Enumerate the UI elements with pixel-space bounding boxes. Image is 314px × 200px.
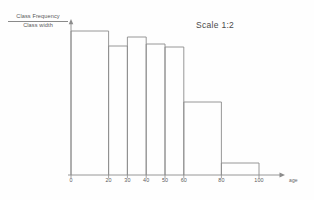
histogram-figure (0, 0, 314, 200)
x-axis (68, 173, 285, 178)
histogram-bar (184, 102, 222, 175)
y-axis-label-numerator: Class Frequency (8, 13, 68, 22)
histogram-bar (165, 47, 184, 175)
x-axis-tick-label: 60 (181, 177, 187, 183)
histogram-svg (0, 0, 314, 200)
x-axis-tick-label: 30 (124, 177, 130, 183)
histogram-bar (221, 163, 259, 175)
x-axis-tick-label: 0 (69, 177, 72, 183)
x-axis-tick-label: 20 (105, 177, 111, 183)
histogram-bar (71, 31, 109, 175)
x-axis-tick-label: 40 (143, 177, 149, 183)
y-axis-label: Class Frequency Class width (8, 13, 68, 30)
histogram-bar (127, 37, 146, 175)
histogram-bars (71, 31, 259, 175)
x-axis-tick-label: 80 (218, 177, 224, 183)
histogram-bar (146, 44, 165, 175)
y-axis-label-denominator: Class width (8, 22, 68, 30)
x-axis-title: age (289, 177, 298, 183)
screenshot-root: Class Frequency Class width Scale 1:2 02… (0, 0, 314, 200)
histogram-bar (109, 46, 128, 175)
x-axis-tick-label: 100 (254, 177, 263, 183)
scale-note: Scale 1:2 (196, 20, 234, 30)
x-axis-tick-label: 50 (162, 177, 168, 183)
